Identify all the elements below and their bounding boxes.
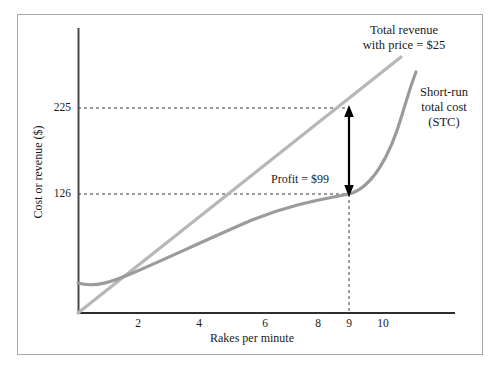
y-tick-label-126: 126	[45, 187, 71, 201]
profit-label: Profit = $99	[271, 172, 329, 186]
short-run-total-cost-label: Short-run total cost (STC)	[420, 85, 468, 129]
x-axis-title: Rakes per minute	[210, 331, 294, 345]
total-revenue-label: Total revenue with price = $25	[363, 23, 445, 53]
y-tick-label-225: 225	[45, 101, 71, 115]
x-tick-label-9: 9	[346, 317, 352, 331]
stc-label-line3: (STC)	[428, 115, 459, 129]
x-tick-label-4: 4	[196, 317, 202, 331]
stc-label-line2: total cost	[421, 100, 466, 114]
profit-arrow-head-up	[344, 105, 354, 117]
x-tick-label-8: 8	[315, 317, 321, 331]
stc-label-line1: Short-run	[420, 85, 468, 99]
y-axis-title: Cost or revenue ($)	[31, 126, 45, 219]
total-revenue-label-line1: Total revenue	[370, 23, 438, 37]
figure-container: 2 4 6 8 9 10 225 126 Rakes per minute Co…	[0, 0, 499, 371]
x-tick-label-10: 10	[377, 317, 389, 331]
chart-plot-area	[0, 0, 499, 371]
x-tick-label-2: 2	[135, 317, 141, 331]
x-tick-label-6: 6	[262, 317, 268, 331]
total-revenue-label-line2: with price = $25	[363, 38, 445, 52]
